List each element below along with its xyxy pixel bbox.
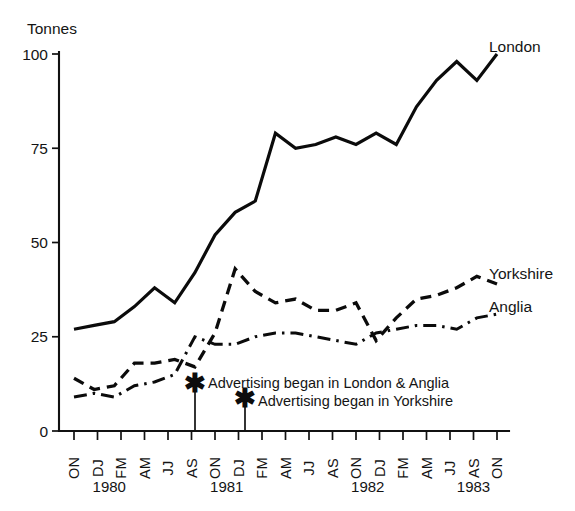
chart-container: 1007550250 Tonnes London Yorkshire Angli…: [0, 0, 575, 511]
x-axis-tick-label: AS: [184, 458, 200, 478]
x-axis-tick-label: AM: [278, 457, 294, 479]
x-axis-tick-label: ON: [207, 457, 223, 479]
x-axis-tick-labels: ONDJFMAMJJASONDJFMAMJJASONDJFMAMJJASON: [66, 457, 505, 479]
x-axis-tick-label: AS: [466, 458, 482, 478]
series-line-london: [74, 54, 497, 329]
x-axis-tick-label: DJ: [90, 459, 106, 477]
x-axis-year-label: 1982: [351, 478, 384, 495]
x-axis-tick-label: JJ: [442, 461, 458, 476]
x-axis-tick-label: JJ: [301, 461, 317, 476]
y-axis-title: Tonnes: [27, 20, 77, 37]
x-axis-year-label: 1983: [457, 478, 490, 495]
x-axis-tick-label: ON: [489, 457, 505, 479]
annotation-london-anglia: Advertising began in London & Anglia: [208, 375, 450, 391]
y-axis-tick-label: 75: [31, 140, 48, 157]
x-axis-tick-label: FM: [395, 457, 411, 478]
line-chart-plot: 1007550250 Tonnes London Yorkshire Angli…: [0, 0, 575, 511]
x-axis-tick-label: JJ: [160, 461, 176, 476]
y-axis-tick-label: 0: [39, 423, 48, 440]
series-label-yorkshire: Yorkshire: [489, 265, 553, 282]
x-axis-tick-label: ON: [348, 457, 364, 479]
x-axis-year-label: 1980: [93, 478, 126, 495]
annotation-yorkshire: Advertising began in Yorkshire: [258, 393, 453, 409]
x-axis-year-label: 1981: [210, 478, 243, 495]
x-axis-tick-label: AM: [137, 457, 153, 479]
y-axis-tick-label: 25: [31, 328, 48, 345]
series-label-anglia: Anglia: [489, 298, 532, 315]
y-axis-tick-label: 100: [22, 46, 48, 63]
y-axis-tick-label: 50: [31, 234, 49, 251]
x-axis-tick-label: AS: [325, 458, 341, 478]
x-axis-tick-label: DJ: [231, 459, 247, 477]
x-axis-year-labels: 1980198119821983: [93, 478, 491, 495]
x-axis-tick-label: DJ: [372, 459, 388, 477]
x-axis-ticks: [74, 431, 497, 440]
series-label-london: London: [489, 38, 541, 55]
event-marker-london-anglia: ✱: [184, 368, 206, 431]
x-axis-tick-label: AM: [419, 457, 435, 479]
x-axis-tick-label: FM: [254, 457, 270, 478]
series-line-yorkshire: [74, 269, 497, 390]
x-axis-tick-label: FM: [113, 457, 129, 478]
asterisk-icon-london-anglia: ✱: [184, 368, 206, 398]
y-axis-tick-labels: 1007550250: [22, 46, 48, 440]
x-axis-tick-label: ON: [66, 457, 82, 479]
